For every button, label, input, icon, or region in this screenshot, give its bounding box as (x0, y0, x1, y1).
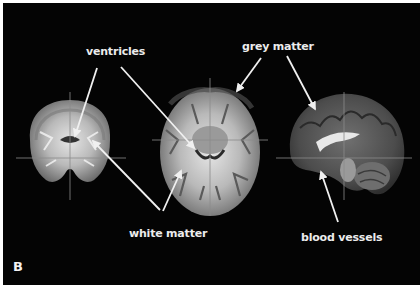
white-matter-label: white matter (129, 227, 207, 240)
blood-vessels-label: blood vessels (301, 231, 382, 244)
sagittal-brain-slice (276, 92, 412, 200)
grey-matter-label: grey matter (242, 40, 314, 53)
grey-matter-arrow-sagittal (287, 56, 315, 109)
white-matter-arrow-coronal (93, 141, 160, 210)
panel-letter: B (13, 259, 23, 274)
coronal-brain-slice (16, 92, 126, 200)
ventricles-label: ventricles (86, 45, 145, 58)
brain-mri-figure (0, 0, 420, 290)
blood-vessels-arrow (321, 172, 338, 222)
grey-matter-arrow-axial (237, 58, 261, 91)
